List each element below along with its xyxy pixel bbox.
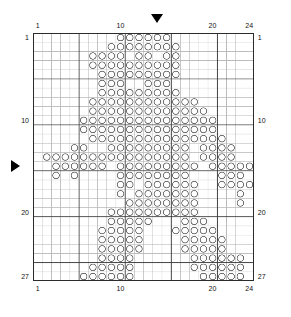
bottom-tick-1: 1 [36,285,40,292]
chart-grid-canvas[interactable] [33,33,254,281]
left-tick-27: 27 [21,273,29,280]
row-marker [11,160,20,172]
top-tick-10: 10 [116,22,124,29]
chart-grid[interactable] [33,33,254,281]
left-tick-10: 10 [21,117,29,124]
right-tick-10: 10 [258,117,266,124]
column-marker [151,14,163,23]
left-tick-1: 1 [25,34,29,41]
top-tick-24: 24 [245,22,253,29]
top-tick-20: 20 [208,22,216,29]
bottom-tick-20: 20 [208,285,216,292]
top-tick-1: 1 [36,22,40,29]
stitch-chart: 1102024110202411020271102027 [0,0,291,317]
right-tick-27: 27 [258,273,266,280]
bottom-tick-24: 24 [245,285,253,292]
right-tick-1: 1 [258,34,262,41]
right-tick-20: 20 [258,209,266,216]
left-tick-20: 20 [21,209,29,216]
bottom-tick-10: 10 [116,285,124,292]
